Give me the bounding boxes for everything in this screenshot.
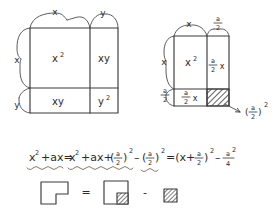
shape-operator-equals: = [81, 186, 90, 199]
left-outer-square [30, 28, 118, 113]
right-callout-exponent: 2 [264, 101, 268, 109]
shape-square-corner-fill [117, 193, 128, 204]
left-cell-y-squared-base: y [98, 96, 104, 107]
right-cell-top-suffix: x [220, 62, 225, 71]
right-cell-bottom-suffix: x [193, 94, 198, 103]
shape-square-with-hatched-corner [104, 181, 128, 204]
figure-left-group: x y x y x 2 xy xy y 2 [14, 7, 118, 113]
left-cell-x-squared-exp: 2 [60, 51, 64, 59]
right-cell-x-squared-base: x [185, 57, 191, 68]
right-side-brace-a2 [166, 89, 174, 95]
right-dim-side-a2-denominator: 2 [163, 96, 167, 104]
right-dim-side-x: x [161, 57, 167, 67]
worksheet-canvas: x y x y x 2 xy xy y 2 [0, 0, 277, 216]
right-callout-denominator: 2 [251, 113, 255, 121]
left-dim-side-y: y [14, 100, 20, 110]
eq-term-5-fraction: ( a 2 ) 2 [110, 147, 133, 167]
right-cell-bottom-denominator: 2 [184, 98, 188, 106]
left-cell-x-squared: x 2 [52, 51, 64, 64]
eq-term-8-fraction: a 2 [195, 150, 203, 167]
eq-term-7-num: a [148, 150, 152, 158]
right-top-brace-a2 [207, 29, 214, 36]
right-dim-top-x: x [186, 19, 192, 29]
eq-term-8-exp: 2 [210, 147, 214, 155]
shape-row-group: = - [41, 181, 177, 204]
shape-hatched-square [164, 189, 177, 202]
shape-operator-minus: - [143, 186, 147, 199]
eq-term-3-exp: 2 [75, 149, 79, 157]
eq-term-9-fraction: a 2 4 [223, 146, 236, 168]
right-top-brace-x-tail [189, 25, 207, 36]
left-dim-side-x: x [14, 55, 20, 65]
eq-term-5-den: 2 [116, 159, 120, 167]
right-side-brace-a2-tail [166, 95, 174, 106]
eq-term-9-minus: – [215, 151, 221, 164]
right-dim-top-a2-denominator: 2 [216, 24, 220, 32]
diagram-svg: x y x y x 2 xy xy y 2 [0, 0, 277, 216]
eq-term-8-open: =(x+ [166, 151, 195, 164]
right-callout-arrow-icon [225, 104, 240, 112]
right-cell-a-over-2-x-top: a 2 x [209, 57, 225, 74]
left-top-brace-x-tail [67, 17, 90, 28]
left-cell-y-squared: y 2 [98, 94, 110, 107]
eq-term-8-den: 2 [197, 159, 201, 167]
right-callout-open-paren: ( [245, 107, 249, 117]
eq-term-5-num: a [116, 150, 120, 158]
left-dim-top-x: x [52, 7, 58, 17]
right-cell-a-over-2-x-bottom: a 2 x [182, 89, 198, 106]
figure-right-group: x a 2 x a 2 x 2 a 2 x a 2 [161, 15, 268, 121]
eq-term-7-den: 2 [148, 159, 152, 167]
eq-term-5-open: ( [110, 151, 114, 164]
shape-gnomon [41, 182, 68, 204]
eq-term-9-num-exp: 2 [232, 146, 236, 154]
left-cell-y-squared-exp: 2 [106, 94, 110, 102]
right-dim-top-a2-numerator: a [216, 15, 220, 23]
right-callout-numerator: a [251, 104, 255, 112]
eq-term-8-num: a [197, 150, 201, 158]
eq-underline-group-2 [68, 167, 133, 170]
eq-term-5-close: ) [123, 151, 127, 164]
left-cell-xy-top: xy [98, 53, 110, 64]
eq-term-7-close: ) [155, 151, 159, 164]
eq-term-6-minus: – [134, 151, 140, 164]
eq-term-7-exp: 2 [161, 147, 165, 155]
eq-term-9-den: 4 [226, 160, 230, 168]
left-cell-xy-bottom: xy [52, 96, 64, 107]
right-dim-side-a2-numerator: a [163, 87, 167, 95]
eq-term-4: +ax+ [81, 151, 113, 164]
eq-term-7-fraction: ( a 2 ) 2 [142, 147, 165, 167]
left-top-brace-x [30, 13, 67, 28]
eq-term-7-open: ( [142, 151, 146, 164]
eq-term-8-close: ) [204, 151, 208, 164]
right-cell-top-denominator: 2 [211, 66, 215, 74]
eq-underline-group-1 [27, 167, 63, 170]
right-hatched-corner-fill [207, 89, 229, 106]
eq-term-2: +ax= [41, 151, 73, 164]
left-dim-top-y: y [100, 8, 106, 18]
left-side-brace-y [19, 88, 30, 98]
eq-term-9-num: a [226, 150, 230, 158]
right-side-brace-x-tail [166, 61, 174, 89]
eq-underline-group-3 [141, 169, 158, 172]
right-cell-bottom-numerator: a [184, 89, 188, 97]
right-cell-x-squared: x 2 [185, 55, 197, 68]
left-side-brace-y-tail [19, 98, 30, 113]
right-callout-close-paren: ) [258, 107, 262, 117]
left-side-brace-x-tail [20, 59, 30, 88]
right-cell-x-squared-exp: 2 [193, 55, 197, 63]
left-cell-x-squared-base: x [52, 53, 58, 64]
shape-hatched-square-fill [164, 189, 177, 202]
right-callout-a-over-2-squared: ( a 2 ) 2 [245, 101, 268, 121]
eq-term-1-exp: 2 [35, 149, 39, 157]
right-cell-top-numerator: a [211, 57, 215, 65]
equation-line-group: x 2 +ax= x 2 +ax+ ( a 2 ) 2 – ( a 2 ) 2 … [27, 146, 236, 172]
eq-term-5-exp: 2 [129, 147, 133, 155]
